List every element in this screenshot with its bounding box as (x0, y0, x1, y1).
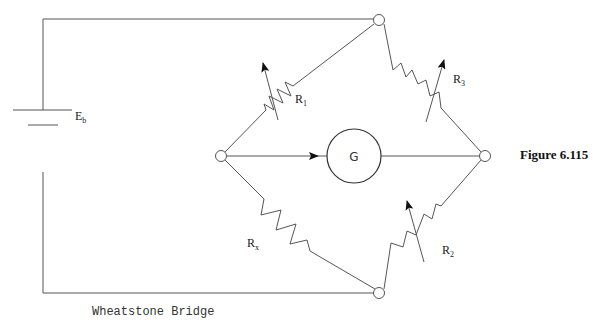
wire-battery-to-bottom-node (43, 172, 374, 293)
resistor-r2 (384, 160, 481, 289)
wheatstone-bridge-diagram: G Eb R1 R3 Rx R2 (0, 0, 603, 326)
battery (13, 110, 72, 125)
node-top (374, 15, 385, 26)
figure-number: Figure 6.115 (520, 147, 588, 163)
node-right (480, 151, 491, 162)
resistor-r3 (384, 24, 481, 152)
galvanometer-label: G (349, 150, 358, 164)
battery-label: Eb (75, 109, 86, 125)
node-left (216, 151, 227, 162)
resistor-r3-zigzag (384, 24, 481, 152)
variable-arrow-icon (407, 201, 424, 262)
node-bottom (374, 288, 385, 299)
rx-label: Rx (247, 236, 259, 252)
r3-label: R3 (453, 72, 465, 88)
r1-label: R1 (295, 92, 307, 108)
diagram-caption: Wheatstone Bridge (92, 305, 214, 319)
wire-battery-to-top-node (43, 19, 374, 110)
resistor-r2-zigzag (384, 160, 481, 289)
r2-label: R2 (442, 243, 454, 259)
